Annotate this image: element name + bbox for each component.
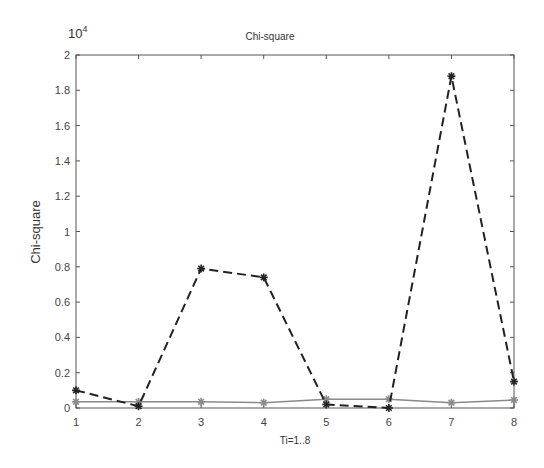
series-dashed-black	[72, 72, 518, 412]
y-tick-label: 1.2	[55, 190, 70, 202]
star-marker-icon	[447, 72, 455, 80]
x-axis-ticks: 12345678	[73, 55, 517, 428]
y-tick-label: 0.6	[55, 296, 70, 308]
x-tick-label: 1	[73, 416, 79, 428]
star-marker-icon	[197, 265, 205, 273]
x-tick-label: 7	[448, 416, 454, 428]
x-tick-label: 2	[136, 416, 142, 428]
star-marker-icon	[260, 273, 268, 281]
plot-frame	[76, 55, 514, 408]
star-marker-icon	[510, 396, 518, 404]
y-tick-label: 2	[64, 49, 70, 61]
y-axis-label: Chi-square	[28, 200, 43, 264]
y-tick-label: 1	[64, 226, 70, 238]
star-marker-icon	[260, 399, 268, 407]
data-series	[72, 72, 518, 412]
y-tick-label: 0.2	[55, 367, 70, 379]
y-exponent-label: 104	[68, 24, 87, 41]
star-marker-icon	[197, 398, 205, 406]
plot-axes	[76, 55, 514, 408]
chi-square-chart: Chi-square 104 00.20.40.60.811.21.41.61.…	[0, 0, 544, 468]
star-marker-icon	[322, 400, 330, 408]
y-tick-label: 0	[64, 402, 70, 414]
x-axis-label: Ti=1..8	[280, 435, 311, 446]
y-tick-label: 1.8	[55, 84, 70, 96]
y-tick-label: 0.4	[55, 331, 70, 343]
star-marker-icon	[72, 398, 80, 406]
star-marker-icon	[135, 402, 143, 410]
chart-title: Chi-square	[246, 31, 295, 42]
x-tick-label: 5	[323, 416, 329, 428]
x-tick-label: 4	[261, 416, 267, 428]
star-marker-icon	[447, 399, 455, 407]
star-marker-icon	[385, 404, 393, 412]
x-tick-label: 3	[198, 416, 204, 428]
x-tick-label: 8	[511, 416, 517, 428]
y-tick-label: 1.4	[55, 155, 70, 167]
y-tick-label: 0.8	[55, 261, 70, 273]
x-tick-label: 6	[386, 416, 392, 428]
star-marker-icon	[510, 378, 518, 386]
series-line	[76, 76, 514, 408]
y-tick-label: 1.6	[55, 120, 70, 132]
star-marker-icon	[72, 386, 80, 394]
y-axis-ticks: 00.20.40.60.811.21.41.61.82	[55, 49, 514, 414]
